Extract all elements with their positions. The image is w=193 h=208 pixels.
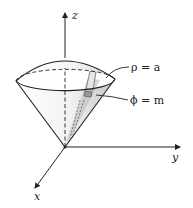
leader-sphere <box>106 67 129 78</box>
x-axis-label: x <box>34 190 41 203</box>
z-axis-label: z <box>71 9 78 22</box>
sphere-equation-label: ρ = a <box>131 61 161 74</box>
cone-sphere-diagram: z y x ρ = a ϕ = m <box>0 0 193 208</box>
y-axis-label: y <box>171 151 179 164</box>
x-axis <box>35 147 65 188</box>
origin-point <box>64 146 67 149</box>
cone-equation-label: ϕ = m <box>130 94 165 107</box>
cone-surface <box>16 79 115 147</box>
